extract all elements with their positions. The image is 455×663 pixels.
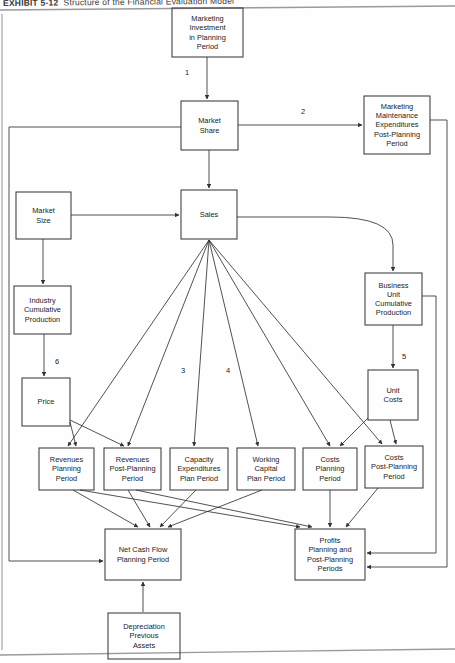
- edge-unitcosts-to-costs-post: [390, 420, 396, 444]
- edge-label-2: 2: [296, 107, 310, 116]
- node-label-unit_costs: Unit Costs: [368, 370, 418, 420]
- edge-sales-to-revenues-post: [128, 240, 209, 446]
- node-label-profits: Profits Planning and Post-Planning Perio…: [295, 529, 365, 580]
- edge-label-3: 3: [176, 366, 190, 375]
- edge-revenues-post-to-netcashflow: [128, 490, 150, 527]
- node-label-revenues_post_planning: Revenues Post-Planning Period: [104, 448, 161, 490]
- edge-sales-to-costs-planning: [209, 240, 330, 446]
- node-text: Marketing Investment in Planning Period: [189, 14, 226, 51]
- edge-businessunit-to-profits: [367, 296, 436, 553]
- node-text: Costs Post-Planning Period: [371, 453, 417, 481]
- node-label-market_size: Market Size: [16, 192, 71, 239]
- edge-maintenance-to-profits: [367, 120, 447, 567]
- edge-label-1: 1: [180, 68, 194, 77]
- edge-workingcapital-to-netcashflow: [168, 490, 262, 527]
- node-label-working_capital: Working Capital Plan Period: [237, 448, 295, 490]
- edge-unitcosts-to-costs-planning: [340, 418, 368, 446]
- edge-sales-to-revenues-planning: [68, 240, 209, 446]
- node-text: Costs Planning Period: [316, 455, 345, 483]
- node-text: Sales: [200, 210, 219, 219]
- node-label-capacity_expenditures: Capacity Expenditures Plan Period: [170, 448, 228, 490]
- node-label-market_share: Market Share: [181, 101, 238, 150]
- node-label-net_cash_flow: Net Cash Flow Planning Period: [105, 529, 181, 580]
- node-text: Price: [38, 397, 55, 406]
- node-text: Market Size: [32, 206, 55, 224]
- node-text: Marketing Maintenance Expenditures Post-…: [374, 102, 420, 148]
- node-text: Depreciation Previous Assets: [123, 622, 165, 650]
- edge-revenues-post-to-profits: [136, 490, 312, 527]
- edge-costs-post-to-profits: [346, 488, 378, 527]
- node-text: Industry Cumulative Production: [24, 296, 61, 324]
- node-label-price: Price: [22, 378, 70, 426]
- edge-label-4: 4: [221, 366, 235, 375]
- node-text: Profits Planning and Post-Planning Perio…: [307, 536, 353, 573]
- node-label-depreciation: Depreciation Previous Assets: [108, 613, 180, 659]
- exhibit-page: EXHIBIT 5-12 Structure of the Financial …: [0, 0, 455, 663]
- edge-price-to-revenues-post: [70, 420, 124, 446]
- edge-label-5: 5: [397, 352, 411, 361]
- node-label-marketing_investment: Marketing Investment in Planning Period: [172, 8, 243, 57]
- node-label-costs_planning: Costs Planning Period: [303, 448, 357, 490]
- edge-sales-to-working-capital: [209, 240, 258, 446]
- node-text: Business Unit Cumulative Production: [375, 281, 412, 318]
- edge-sales-to-costs-post: [209, 240, 382, 444]
- node-label-marketing_maintenance: Marketing Maintenance Expenditures Post-…: [364, 96, 430, 154]
- edge-label-6: 6: [50, 357, 64, 366]
- node-text: Unit Costs: [384, 386, 403, 404]
- node-label-costs_post_planning: Costs Post-Planning Period: [365, 446, 423, 488]
- edge-revenues-planning-to-profits: [80, 490, 300, 527]
- node-text: Working Capital Plan Period: [247, 455, 285, 483]
- node-text: Market Share: [198, 116, 221, 134]
- node-text: Net Cash Flow Planning Period: [117, 545, 169, 563]
- edge-revenues-planning-to-netcashflow: [73, 490, 138, 527]
- node-label-business_unit_cumulative: Business Unit Cumulative Production: [365, 273, 422, 325]
- edge-sales-to-capacity: [194, 240, 209, 446]
- edge-sales-to-businessunit: [237, 217, 393, 271]
- node-label-sales: Sales: [181, 190, 237, 239]
- node-text: Capacity Expenditures Plan Period: [177, 455, 220, 483]
- node-label-revenues_planning: Revenues Planning Period: [39, 448, 94, 490]
- node-text: Revenues Planning Period: [50, 455, 83, 483]
- node-label-industry_cumulative: Industry Cumulative Production: [14, 286, 71, 334]
- node-text: Revenues Post-Planning Period: [109, 455, 155, 483]
